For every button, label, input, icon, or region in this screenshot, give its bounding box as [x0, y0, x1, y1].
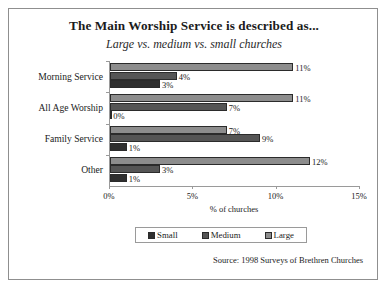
bar-medium	[110, 165, 160, 173]
bar-value-label: 3%	[162, 81, 173, 89]
legend-item-large[interactable]: Large	[265, 230, 294, 240]
plot-area: 0%5%10%15% Morning Service11%4%3%All Age…	[109, 61, 359, 186]
bar-medium	[110, 134, 260, 142]
x-tick	[109, 186, 110, 189]
y-tick	[106, 124, 109, 125]
y-tick	[106, 61, 109, 62]
bar-large	[110, 157, 310, 165]
bar-small	[110, 174, 127, 182]
chart-legend: SmallMediumLarge	[135, 227, 307, 243]
y-tick	[106, 92, 109, 93]
x-tick	[359, 186, 360, 189]
x-tick	[192, 186, 193, 189]
chart-subtitle: Large vs. medium vs. small churches	[9, 37, 379, 52]
legend-label: Medium	[211, 230, 241, 240]
bar-value-label: 7%	[229, 104, 240, 112]
x-axis-title: % of churches	[109, 204, 359, 214]
y-axis-category-label: Other	[0, 164, 103, 175]
bar-value-label: 3%	[162, 166, 173, 174]
x-axis-line	[109, 186, 359, 187]
x-tick-label: 10%	[256, 191, 296, 201]
bar-medium	[110, 103, 227, 111]
bar-small	[110, 80, 160, 88]
bar-large	[110, 126, 227, 134]
y-axis-category-label: Family Service	[0, 133, 103, 144]
legend-swatch-icon	[265, 232, 272, 239]
bar-value-label: 9%	[262, 135, 273, 143]
chart-frame: The Main Worship Service is described as…	[8, 8, 378, 280]
x-tick	[276, 186, 277, 189]
bar-value-label: 11%	[295, 95, 310, 103]
legend-item-small[interactable]: Small	[148, 230, 178, 240]
bar-small	[110, 111, 112, 119]
bar-medium	[110, 72, 177, 80]
legend-label: Small	[157, 230, 178, 240]
bar-value-label: 12%	[312, 158, 328, 166]
x-tick-label: 5%	[172, 191, 212, 201]
bar-large	[110, 94, 293, 102]
bar-value-label: 4%	[179, 73, 190, 81]
y-axis-category-label: All Age Worship	[0, 102, 103, 113]
bar-small	[110, 143, 127, 151]
y-axis-category-label: Morning Service	[0, 71, 103, 82]
x-tick-label: 0%	[89, 191, 129, 201]
bar-value-label: 1%	[129, 144, 140, 152]
bar-value-label: 1%	[129, 175, 140, 183]
legend-item-medium[interactable]: Medium	[202, 230, 241, 240]
legend-swatch-icon	[202, 232, 209, 239]
legend-label: Large	[274, 230, 294, 240]
chart-title: The Main Worship Service is described as…	[9, 18, 379, 34]
bar-large	[110, 63, 293, 71]
legend-swatch-icon	[148, 232, 155, 239]
source-note: Source: 1998 Surveys of Brethren Churche…	[213, 255, 363, 265]
y-tick	[106, 155, 109, 156]
bar-value-label: 11%	[295, 64, 310, 72]
bar-value-label: 0%	[113, 112, 124, 120]
x-tick-label: 15%	[339, 191, 379, 201]
